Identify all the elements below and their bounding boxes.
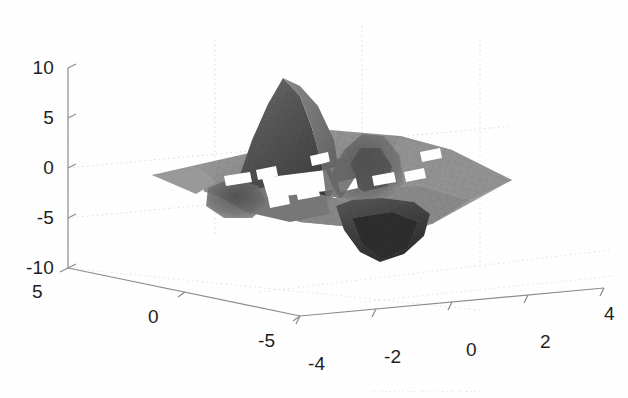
z-tick-label-0: 0	[6, 157, 54, 179]
z-tick-label-10: 10	[6, 57, 54, 79]
x-tick-label-neg4: -4	[308, 353, 325, 375]
floor-grid	[68, 250, 614, 310]
x-tick-label-4: 4	[604, 303, 615, 325]
z-tick-label-neg10: -10	[6, 257, 54, 279]
z-tick-label-neg5: -5	[6, 207, 54, 229]
figure-canvas: 10 5 0 -5 -10 5 0 -5 -4 -2 0 2 4 · ···· …	[0, 0, 628, 398]
z-tick-label-5: 5	[6, 107, 54, 129]
caption-artifact: · ···· · ·· ·· · ··· · ····	[372, 385, 624, 394]
y-tick-label-0: 0	[148, 306, 159, 328]
surface-plot	[0, 0, 628, 398]
surface-mesh	[152, 78, 512, 262]
y-tick-label-neg5: -5	[258, 330, 275, 352]
y-tick-label-5: 5	[32, 281, 43, 303]
x-tick-label-neg2: -2	[384, 346, 401, 368]
x-tick-label-0: 0	[466, 339, 477, 361]
x-tick-label-2: 2	[540, 331, 551, 353]
